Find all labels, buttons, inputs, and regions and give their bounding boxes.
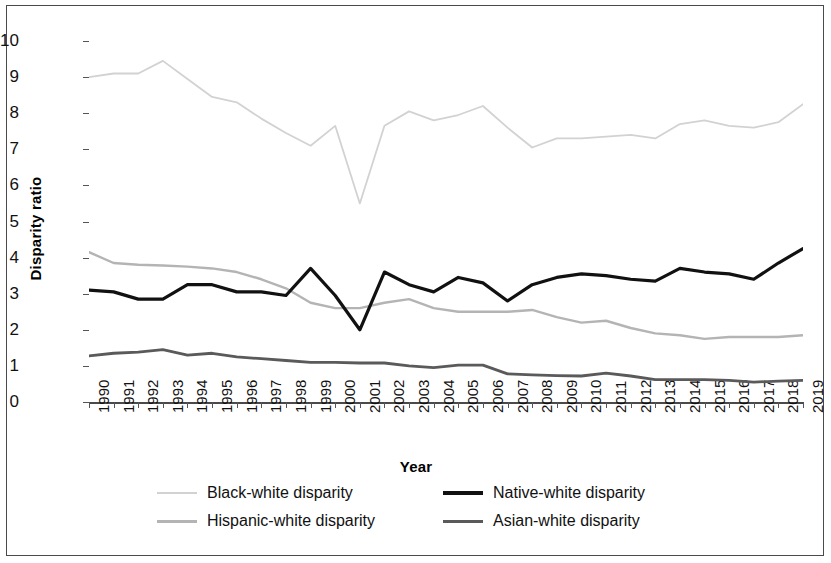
x-tick-mark <box>187 402 188 408</box>
x-tick-mark <box>114 402 115 408</box>
y-tick-label: 8 <box>0 104 19 121</box>
y-tick-label: 1 <box>0 357 19 374</box>
x-tick-mark <box>261 402 262 408</box>
y-tick-label: 0 <box>0 393 19 410</box>
y-axis-title: Disparity ratio <box>27 154 44 304</box>
series-line <box>89 350 803 382</box>
x-tick-mark <box>360 402 361 408</box>
y-tick-label: 2 <box>0 321 19 338</box>
x-tick-mark <box>754 402 755 408</box>
legend-line-swatch <box>157 520 197 523</box>
x-tick-mark <box>163 402 164 408</box>
x-tick-mark <box>631 402 632 408</box>
x-tick-mark <box>89 402 90 408</box>
x-tick-mark <box>581 402 582 408</box>
x-tick-mark <box>778 402 779 408</box>
y-tick-label: 4 <box>0 249 19 266</box>
series-line <box>89 252 803 339</box>
y-tick-label: 3 <box>0 285 19 302</box>
x-tick-mark <box>557 402 558 408</box>
x-tick-mark <box>705 402 706 408</box>
legend-item: Black-white disparity <box>157 484 427 502</box>
legend-label: Asian-white disparity <box>493 512 640 530</box>
legend-line-swatch <box>443 520 483 523</box>
legend-label: Native-white disparity <box>493 484 645 502</box>
legend-line-swatch <box>157 492 197 494</box>
x-tick-mark <box>434 402 435 408</box>
x-tick-mark <box>237 402 238 408</box>
x-tick-mark <box>311 402 312 408</box>
x-tick-mark <box>655 402 656 408</box>
x-tick-mark <box>532 402 533 408</box>
y-tick-label: 5 <box>0 213 19 230</box>
legend-item: Native-white disparity <box>443 484 697 502</box>
series-lines <box>89 41 803 402</box>
legend-label: Black-white disparity <box>207 484 353 502</box>
x-tick-mark <box>212 402 213 408</box>
x-tick-mark <box>384 402 385 408</box>
x-tick-mark <box>483 402 484 408</box>
legend-item: Asian-white disparity <box>443 512 697 530</box>
x-tick-mark <box>680 402 681 408</box>
x-tick-mark <box>508 402 509 408</box>
series-line <box>89 249 803 330</box>
x-tick-mark <box>138 402 139 408</box>
y-tick-label: 7 <box>0 140 19 157</box>
series-line <box>89 61 803 204</box>
x-tick-mark <box>803 402 804 408</box>
legend-item: Hispanic-white disparity <box>157 512 427 530</box>
plot-area: 012345678910 199019911992199319941995199… <box>89 41 803 402</box>
x-axis-title: Year <box>7 458 825 475</box>
x-tick-mark <box>606 402 607 408</box>
legend-line-swatch <box>443 491 483 495</box>
chart-figure: Disparity ratio 012345678910 19901991199… <box>7 6 825 557</box>
chart-legend: Black-white disparityNative-white dispar… <box>157 484 697 530</box>
x-tick-mark <box>335 402 336 408</box>
x-tick-mark <box>409 402 410 408</box>
x-tick-mark <box>286 402 287 408</box>
x-tick-mark <box>458 402 459 408</box>
y-tick-label: 6 <box>0 176 19 193</box>
legend-label: Hispanic-white disparity <box>207 512 375 530</box>
x-tick-label: 2019 <box>809 380 826 413</box>
y-tick-label: 10 <box>0 32 19 49</box>
y-tick-label: 9 <box>0 68 19 85</box>
figure-border: Disparity ratio 012345678910 19901991199… <box>6 5 824 556</box>
x-tick-mark <box>729 402 730 408</box>
